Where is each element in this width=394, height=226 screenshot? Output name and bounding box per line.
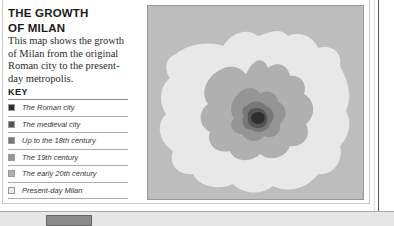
- title-line-1: THE GROWTH: [8, 6, 89, 21]
- legend-item: The Roman city: [8, 100, 128, 117]
- legend-item: The 19th century: [8, 150, 128, 167]
- divider: [378, 0, 379, 211]
- legend-item: The early 20th century: [8, 166, 128, 183]
- page: THE GROWTH OF MILAN This map shows the g…: [0, 0, 394, 226]
- page-title: THE GROWTH OF MILAN: [8, 6, 89, 36]
- swatch-19th-century: [8, 154, 15, 161]
- swatch-18th-century: [8, 137, 15, 144]
- legend-label: Present-day Milan: [22, 186, 82, 195]
- legend-label: The 19th century: [22, 153, 78, 162]
- title-line-2: OF MILAN: [8, 21, 89, 36]
- map-graphic: [148, 6, 364, 200]
- swatch-medieval-city: [8, 121, 15, 128]
- swatch-early-20th-century: [8, 170, 15, 177]
- swatch-present-day: [8, 187, 15, 194]
- description: This map shows the growth of Milan from …: [8, 35, 133, 85]
- divider: [374, 0, 375, 211]
- legend-item: Present-day Milan: [8, 183, 128, 200]
- legend-item: Up to the 18th century: [8, 133, 128, 150]
- legend-label: Up to the 18th century: [22, 136, 96, 145]
- legend-item: The medieval city: [8, 117, 128, 134]
- page-tab[interactable]: [46, 215, 92, 226]
- legend-label: The medieval city: [22, 120, 80, 129]
- key-title: KEY: [8, 87, 28, 97]
- growth-map: [147, 5, 364, 200]
- legend-label: The Roman city: [22, 103, 75, 112]
- swatch-roman-city: [8, 104, 15, 111]
- legend-label: The early 20th century: [22, 169, 97, 178]
- legend: The Roman city The medieval city Up to t…: [8, 99, 128, 199]
